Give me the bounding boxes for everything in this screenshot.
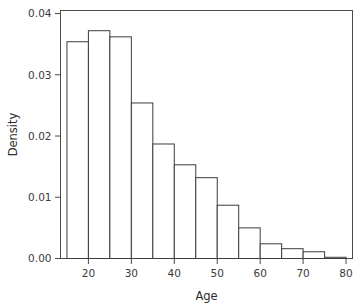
y-tick-label: 0.03 <box>28 69 51 81</box>
x-axis-title: Age <box>195 289 217 303</box>
histogram-bar <box>282 249 303 259</box>
histogram-bar <box>239 228 260 259</box>
histogram-bar <box>196 178 217 259</box>
histogram-bar <box>131 103 152 259</box>
histogram-figure: 203040506070800.000.010.020.030.04AgeDen… <box>0 0 363 308</box>
x-tick-label: 20 <box>82 267 95 279</box>
x-tick-label: 40 <box>168 267 181 279</box>
y-axis-title: Density <box>6 112 20 156</box>
histogram-bar <box>174 165 195 259</box>
histogram-bar <box>325 257 346 258</box>
histogram-bar <box>67 42 88 259</box>
x-tick-label: 70 <box>296 267 309 279</box>
x-tick-label: 80 <box>339 267 352 279</box>
bars-group <box>67 31 346 259</box>
x-tick-label: 60 <box>253 267 266 279</box>
y-tick-label: 0.01 <box>28 191 51 203</box>
histogram-bar <box>303 252 324 259</box>
y-tick-label: 0.00 <box>28 252 51 264</box>
histogram-bar <box>260 244 281 259</box>
y-tick-label: 0.04 <box>28 7 52 19</box>
x-tick-label: 50 <box>211 267 224 279</box>
histogram-bar <box>88 31 109 259</box>
y-axis: 0.000.010.020.030.04 <box>28 7 60 264</box>
y-tick-label: 0.02 <box>28 130 51 142</box>
histogram-bar <box>217 205 238 258</box>
x-tick-label: 30 <box>125 267 138 279</box>
histogram-bar <box>110 37 131 259</box>
x-axis: 20304050607080 <box>82 259 353 279</box>
chart-canvas: 203040506070800.000.010.020.030.04AgeDen… <box>0 0 363 308</box>
histogram-bar <box>153 144 174 259</box>
